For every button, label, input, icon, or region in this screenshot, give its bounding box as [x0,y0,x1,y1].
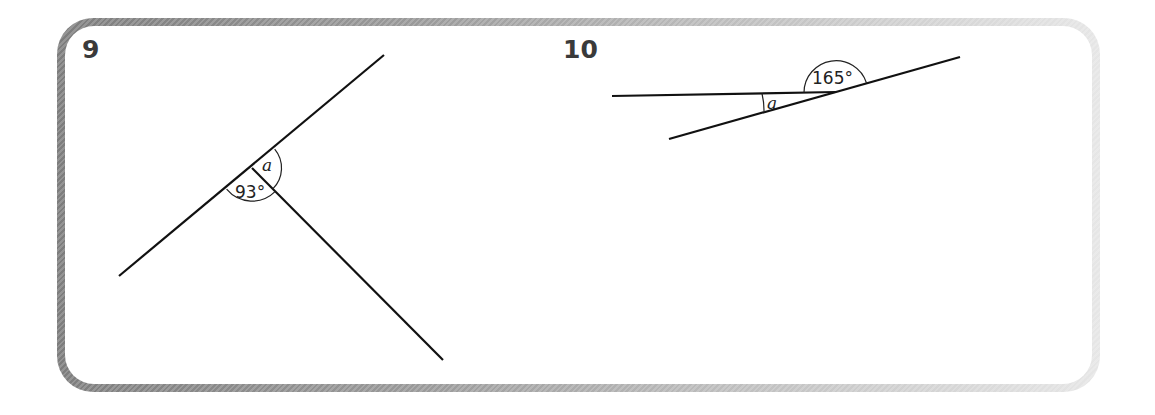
figure-9-angle-93-label: 93° [235,182,265,202]
figure-10-angle-a-label: a [767,93,777,113]
figure-9-angle-a-arc [273,149,282,189]
figure-9-line-branch [252,168,443,360]
geometry-diagrams: a 93° 165° a [0,0,1155,415]
figure-9: a 93° [119,55,443,360]
figure-10-angle-165-label: 165° [812,68,853,88]
figure-10-angle-a-arc [762,94,764,113]
figure-9-angle-a-label: a [262,155,272,175]
figure-10-line-horizontal [612,92,836,96]
figure-9-line-main [119,55,384,276]
figure-10: 165° a [612,57,960,139]
